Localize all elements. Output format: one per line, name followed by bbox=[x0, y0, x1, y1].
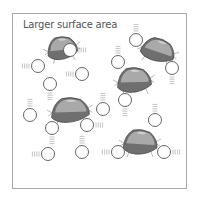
motion-lines bbox=[170, 77, 175, 84]
motion-lines bbox=[80, 136, 85, 143]
reactant-molecule bbox=[32, 60, 45, 73]
motion-lines bbox=[48, 93, 53, 100]
reactant-molecule bbox=[130, 34, 143, 47]
solid-particle-rock bbox=[112, 66, 156, 97]
reactant-molecule bbox=[149, 114, 162, 127]
motion-lines bbox=[153, 104, 158, 111]
reactant-molecule bbox=[42, 148, 55, 161]
reactant-molecule bbox=[166, 62, 179, 75]
reactant-molecule bbox=[119, 94, 132, 107]
reactant-molecule bbox=[97, 103, 110, 116]
reactant-molecule bbox=[44, 78, 57, 91]
motion-lines bbox=[79, 48, 86, 53]
reactant-molecule bbox=[112, 146, 125, 159]
reactant-molecule bbox=[112, 56, 125, 69]
motion-lines bbox=[22, 64, 29, 69]
solid-particle-rock bbox=[119, 129, 161, 157]
motion-lines bbox=[134, 24, 139, 31]
reactant-molecule bbox=[64, 44, 77, 57]
motion-lines bbox=[102, 150, 109, 155]
motion-lines bbox=[50, 137, 55, 144]
motion-lines bbox=[101, 93, 106, 100]
reactant-molecule bbox=[76, 146, 89, 159]
particles-diagram bbox=[0, 0, 198, 198]
motion-lines bbox=[116, 46, 121, 53]
reactant-molecule bbox=[158, 146, 171, 159]
motion-lines bbox=[66, 72, 73, 77]
motion-lines bbox=[28, 99, 33, 106]
motion-lines bbox=[173, 150, 180, 155]
motion-lines bbox=[32, 152, 39, 157]
reactant-molecule bbox=[24, 109, 37, 122]
motion-lines bbox=[96, 123, 103, 128]
reactant-molecule bbox=[81, 119, 94, 132]
motion-lines bbox=[123, 109, 128, 116]
reactant-molecule bbox=[46, 122, 59, 135]
reactant-molecule bbox=[76, 68, 89, 81]
